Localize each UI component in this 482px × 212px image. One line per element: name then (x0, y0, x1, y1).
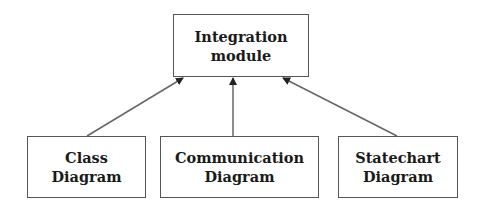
statechart-diagram-label: Statechart Diagram (355, 148, 441, 186)
integration-module-label: Integration module (195, 27, 288, 65)
communication-diagram-label: Communication Diagram (175, 148, 304, 186)
statechart-diagram-node: Statechart Diagram (338, 136, 458, 198)
integration-module-node: Integration module (173, 14, 309, 77)
class-diagram-node: Class Diagram (27, 136, 146, 198)
edge-statechart-to-integration (283, 78, 397, 136)
communication-diagram-node: Communication Diagram (160, 136, 319, 198)
diagram-canvas: Integration module Class Diagram Communi… (0, 0, 482, 212)
class-diagram-label: Class Diagram (52, 148, 122, 186)
edge-class-to-integration (87, 78, 183, 136)
